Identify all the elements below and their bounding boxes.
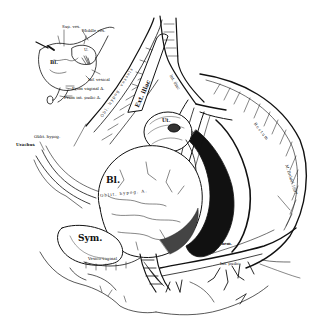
label-uterus: Ut.	[162, 118, 170, 123]
label-urachus: Urachus	[16, 143, 35, 147]
label-inset-bladder: Bl.	[50, 60, 58, 65]
label-middle-ves: Middle ves.	[82, 29, 105, 33]
pelvis-line-art	[0, 0, 320, 333]
label-inset-uterus: U.	[84, 48, 88, 52]
label-from-vaginal-a: From vaginal A.	[72, 87, 104, 91]
label-bladder: Bl.	[106, 176, 120, 185]
inset-bladder-diagram	[36, 27, 114, 104]
vagina-urethra	[140, 254, 170, 292]
label-int-pudic: Int. pudic	[220, 262, 240, 266]
anatomical-illustration: Sup. ves. Middle ves. Bl. U. Inf. vesica…	[0, 0, 320, 333]
ext-iliac-vessel	[128, 34, 168, 112]
label-inf-hem: Inf. hem.	[212, 242, 232, 246]
label-sup-ves: Sup. ves.	[62, 25, 80, 29]
label-from-int-pudic-a: From int. pudic A.	[64, 96, 101, 100]
label-inf-vesical: Inf. vesical	[88, 78, 110, 82]
label-symphysis: Sym.	[78, 234, 102, 243]
label-oblit-hypog: Oblit. hypog.	[34, 135, 60, 139]
label-vesico-vaginal: Vesico-vaginal	[88, 257, 117, 261]
